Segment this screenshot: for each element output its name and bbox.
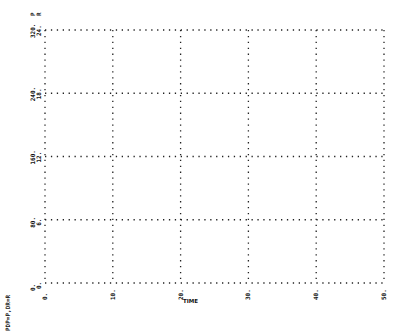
x-axis-title: TIME — [183, 298, 198, 304]
axis-marker: R — [35, 12, 42, 16]
y2-tick-label: 6. — [35, 219, 42, 226]
footer-label: PDP=P,DR=R — [4, 294, 11, 331]
axis-labels: 0.10.20.30.40.50.0.0.80.6.160.12.240.18.… — [29, 12, 387, 300]
x-tick-label: 10. — [109, 289, 116, 300]
y2-tick-label: 0. — [35, 282, 42, 289]
x-tick-label: 50. — [380, 289, 387, 300]
y2-tick-label: 24. — [35, 25, 42, 36]
grid-lines — [45, 30, 384, 283]
y2-tick-label: 12. — [35, 152, 42, 163]
x-tick-label: 0. — [41, 293, 48, 300]
x-tick-label: 40. — [312, 289, 319, 300]
chart-canvas: 0.10.20.30.40.50.0.0.80.6.160.12.240.18.… — [0, 0, 401, 333]
y2-tick-label: 18. — [35, 88, 42, 99]
x-tick-label: 30. — [244, 289, 251, 300]
